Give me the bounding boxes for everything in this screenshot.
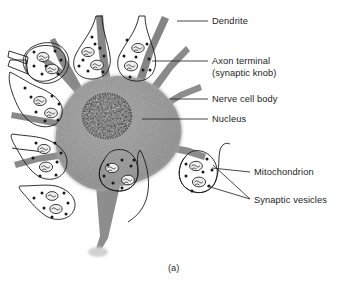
- mitochondrion: [50, 204, 62, 213]
- mitochondrion: [46, 64, 59, 74]
- mitochondrion: [82, 47, 94, 56]
- label-axon-terminal-line2: (synaptic knob): [212, 68, 277, 78]
- mitochondrion: [132, 43, 144, 52]
- mitochondrion: [34, 96, 46, 105]
- mitochondrion: [38, 144, 50, 153]
- label-synaptic-vesicles: Synaptic vesicles: [254, 195, 327, 205]
- label-nucleus: Nucleus: [212, 114, 247, 124]
- mitochondrion: [39, 162, 52, 172]
- mitochondrion: [192, 177, 205, 187]
- neuron-diagram-canvas: Dendrite Axon terminal (synaptic knob) N…: [0, 0, 358, 290]
- mitochondrion: [190, 161, 203, 170]
- mitochondrion: [46, 192, 58, 201]
- neuron-figure: Dendrite Axon terminal (synaptic knob) N…: [0, 0, 358, 290]
- label-dendrite: Dendrite: [212, 16, 248, 26]
- label-mitochondrion: Mitochondrion: [254, 167, 314, 177]
- axon-fade: [88, 247, 108, 257]
- mitochondrion: [91, 60, 104, 70]
- label-nerve-cell-body: Nerve cell body: [212, 94, 278, 104]
- mitochondrion: [45, 108, 58, 118]
- label-axon-terminal-line1: Axon terminal: [212, 56, 270, 66]
- mitochondrion: [37, 52, 49, 61]
- mitochondrion: [122, 175, 135, 185]
- mitochondrion: [124, 61, 137, 71]
- figure-caption: (a): [168, 263, 179, 273]
